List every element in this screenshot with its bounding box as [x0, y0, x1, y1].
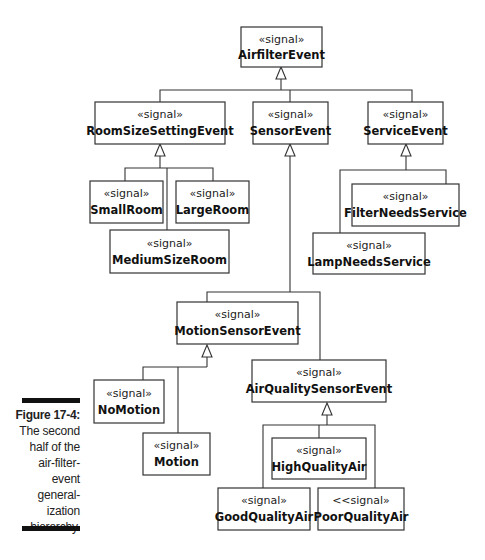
svg-text:HighQualityAir: HighQualityAir: [271, 460, 366, 474]
class-medium-size-room: «signal» MediumSizeRoom: [110, 230, 229, 273]
figure-caption-line: half of the: [0, 439, 80, 455]
class-large-room: «signal» LargeRoom: [176, 181, 249, 223]
class-motion: «signal» Motion: [143, 433, 210, 475]
arrowhead-air-quality-sensor-event: [322, 403, 332, 415]
class-lamp-needs-service: «signal» LampNeedsService: [307, 233, 431, 274]
svg-text:SensorEvent: SensorEvent: [250, 124, 332, 138]
svg-text:«signal»: «signal»: [215, 308, 261, 321]
class-good-quality-air: «signal» GoodQualityAir: [215, 488, 314, 530]
svg-text:RoomSizeSettingEvent: RoomSizeSettingEvent: [86, 124, 234, 138]
svg-text:ServiceEvent: ServiceEvent: [363, 124, 448, 138]
class-room-size-setting-event: «signal» RoomSizeSettingEvent: [86, 102, 234, 144]
svg-text:Motion: Motion: [154, 455, 199, 469]
svg-text:MediumSizeRoom: MediumSizeRoom: [112, 253, 227, 267]
arrowhead-airfilter-event: [276, 67, 286, 79]
svg-text:NoMotion: NoMotion: [98, 403, 160, 417]
class-high-quality-air: «signal» HighQualityAir: [271, 438, 366, 479]
svg-text:LampNeedsService: LampNeedsService: [307, 255, 431, 269]
svg-text:«signal»: «signal»: [296, 444, 342, 457]
arrowhead-service-event: [401, 144, 411, 156]
svg-text:«signal»: «signal»: [383, 190, 429, 203]
caption-bottom-rule: [22, 526, 80, 531]
class-motion-sensor-event: «signal» MotionSensorEvent: [174, 302, 301, 344]
class-airfilter-event: «signal» AirfilterEvent: [238, 27, 325, 67]
figure-caption-title: Figure 17-4:: [0, 407, 80, 423]
figure-caption: Figure 17-4: The second half of the air-…: [0, 407, 80, 535]
class-poor-quality-air: <<signal» PoorQualityAir: [313, 488, 408, 530]
svg-text:GoodQualityAir: GoodQualityAir: [215, 510, 314, 524]
svg-text:PoorQualityAir: PoorQualityAir: [313, 510, 408, 524]
figure-caption-line: event: [0, 471, 80, 487]
svg-text:FilterNeedsService: FilterNeedsService: [344, 206, 467, 220]
arrowhead-room-size-setting-event: [155, 144, 165, 156]
svg-text:«signal»: «signal»: [383, 108, 429, 121]
figure-caption-line: ization: [0, 503, 80, 519]
svg-text:«signal»: «signal»: [147, 237, 193, 250]
svg-text:«signal»: «signal»: [137, 108, 183, 121]
arrowhead-motion-sensor-event: [202, 345, 212, 357]
svg-text:AirQualitySensorEvent: AirQualitySensorEvent: [246, 382, 393, 396]
svg-text:SmallRoom: SmallRoom: [90, 203, 163, 217]
svg-text:«signal»: «signal»: [190, 187, 236, 200]
svg-text:«signal»: «signal»: [154, 439, 200, 452]
caption-top-rule: [22, 398, 80, 403]
class-filter-needs-service: «signal» FilterNeedsService: [344, 184, 467, 226]
class-no-motion: «signal» NoMotion: [94, 380, 164, 423]
svg-text:«signal»: «signal»: [346, 239, 392, 252]
svg-text:«signal»: «signal»: [296, 366, 342, 379]
class-air-quality-sensor-event: «signal» AirQualitySensorEvent: [246, 360, 393, 402]
svg-text:«signal»: «signal»: [241, 494, 287, 507]
svg-text:LargeRoom: LargeRoom: [176, 203, 249, 217]
figure-caption-line: general-: [0, 487, 80, 503]
svg-text:«signal»: «signal»: [104, 187, 150, 200]
svg-text:<<signal»: <<signal»: [332, 494, 390, 507]
arrowhead-sensor-event: [285, 144, 295, 156]
svg-text:«signal»: «signal»: [268, 108, 314, 121]
class-service-event: «signal» ServiceEvent: [363, 102, 448, 144]
svg-text:AirfilterEvent: AirfilterEvent: [238, 48, 325, 62]
class-sensor-event: «signal» SensorEvent: [250, 102, 332, 144]
figure-caption-line: air-filter-: [0, 455, 80, 471]
svg-text:MotionSensorEvent: MotionSensorEvent: [174, 324, 301, 338]
svg-text:«signal»: «signal»: [259, 33, 305, 46]
svg-text:«signal»: «signal»: [106, 387, 152, 400]
class-small-room: «signal» SmallRoom: [90, 181, 163, 223]
figure-caption-line: The second: [0, 423, 80, 439]
